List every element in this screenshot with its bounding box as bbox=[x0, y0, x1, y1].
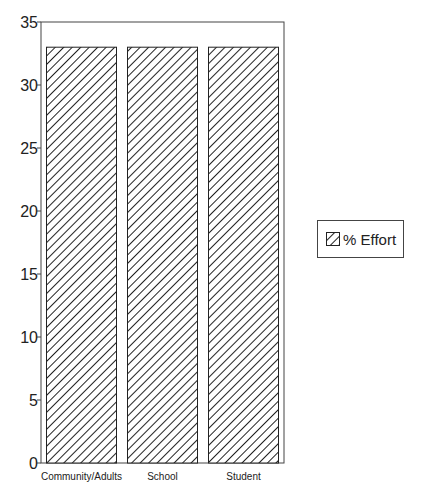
y-tick-label: 25 bbox=[20, 140, 38, 157]
legend-label: % Effort bbox=[343, 231, 396, 248]
hatch-swatch-icon bbox=[326, 232, 340, 246]
x-tick-label: School bbox=[147, 471, 178, 482]
y-tick-label: 15 bbox=[20, 266, 38, 283]
bar bbox=[128, 47, 198, 463]
y-tick-label: 5 bbox=[29, 392, 38, 409]
plot-area: 05101520253035Community/AdultsSchoolStud… bbox=[20, 14, 284, 482]
y-tick-label: 35 bbox=[20, 14, 38, 31]
bar bbox=[209, 47, 279, 463]
bar bbox=[47, 47, 117, 463]
y-tick-label: 20 bbox=[20, 203, 38, 220]
y-tick-label: 30 bbox=[20, 77, 38, 94]
legend: % Effort bbox=[317, 220, 404, 258]
y-tick-label: 0 bbox=[29, 455, 38, 472]
x-tick-label: Community/Adults bbox=[41, 471, 122, 482]
x-tick-label: Student bbox=[226, 471, 261, 482]
y-tick-label: 10 bbox=[20, 329, 38, 346]
